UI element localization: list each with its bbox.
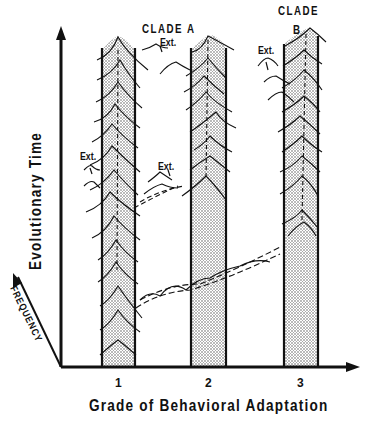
x-axis-arrow-icon (346, 362, 360, 372)
y-axis-arrow-icon (56, 26, 66, 40)
extinction-label: Ext. (80, 150, 96, 162)
extinction-label: Ext. (258, 44, 274, 56)
clade-b-label-line2: B (293, 22, 302, 37)
clade-a-label: CLADE A (142, 21, 195, 36)
x-tick-1: 1 (115, 376, 122, 390)
band-grade-2 (191, 35, 226, 367)
x-axis-title: Grade of Behavioral Adaptation (89, 396, 329, 416)
extinction-label: Ext. (160, 36, 176, 48)
x-tick-3: 3 (297, 376, 304, 390)
diagram-graphic (0, 0, 366, 424)
y-axis-title: Evolutionary Time (26, 132, 46, 270)
x-tick-2: 2 (205, 376, 212, 390)
clade-b-label-line1: CLADE (278, 3, 319, 18)
extinction-label: Ext. (158, 160, 174, 172)
band-grade-1 (102, 36, 135, 367)
diagram-canvas: CLADE A CLADE B Ext. Ext. Ext. Ext. 1 2 … (0, 0, 366, 424)
